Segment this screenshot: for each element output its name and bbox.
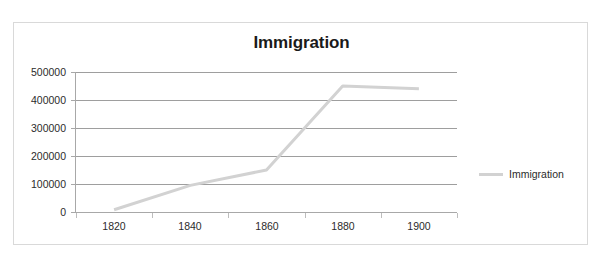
x-axis-tick-mark: [152, 213, 153, 218]
x-axis-tick-label: 1840: [160, 221, 220, 232]
x-axis-tick-label: 1860: [237, 221, 297, 232]
x-axis-tick-label: 1880: [313, 221, 373, 232]
y-axis-tick-mark: [71, 128, 75, 129]
clipped-header-text: · · · · · · ·: [0, 0, 600, 12]
clipped-header-ghost-text: · · · · · ·: [230, 0, 570, 1]
legend-swatch-immigration: [479, 173, 503, 176]
y-axis-tick-mark: [71, 72, 75, 73]
y-axis-tick-label: 500000: [12, 67, 66, 78]
x-axis-tick-mark: [76, 213, 77, 218]
x-axis-tick-mark: [381, 213, 382, 218]
gridline: [76, 212, 457, 213]
plot-area: [76, 72, 457, 212]
y-axis-tick-label: 200000: [12, 151, 66, 162]
clipped-header-ghost-right: ·: [560, 0, 563, 1]
x-axis-tick-label: 1820: [84, 221, 144, 232]
chart-legend: Immigration: [479, 168, 564, 180]
y-axis-tick-mark: [71, 184, 75, 185]
legend-label-immigration: Immigration: [509, 168, 564, 180]
y-axis-tick-label: 300000: [12, 123, 66, 134]
y-axis-tick-label: 0: [12, 207, 66, 218]
chart-container: Immigration 0100000200000300000400000500…: [13, 22, 588, 245]
x-axis-tick-mark: [457, 213, 458, 218]
x-axis-tick-mark: [228, 213, 229, 218]
y-axis-tick-label: 100000: [12, 179, 66, 190]
x-axis-tick-mark: [305, 213, 306, 218]
x-axis-tick-label: 1900: [389, 221, 449, 232]
series-immigration-line: [76, 72, 457, 212]
y-axis-tick-mark: [71, 156, 75, 157]
y-axis-tick-label: 400000: [12, 95, 66, 106]
chart-title: Immigration: [14, 33, 589, 53]
y-axis-tick-mark: [71, 100, 75, 101]
y-axis-tick-mark: [71, 212, 75, 213]
